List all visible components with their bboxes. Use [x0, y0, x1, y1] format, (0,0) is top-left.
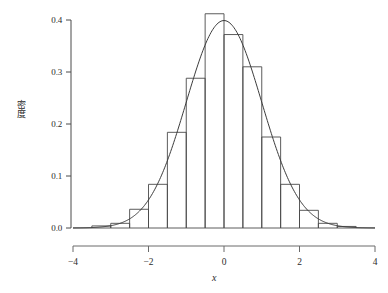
y-axis-label: 密度 — [12, 100, 26, 118]
histogram-bar — [300, 210, 319, 228]
histogram-bar — [167, 132, 186, 228]
x-tick-label-2: 0 — [212, 257, 236, 267]
x-tick-label-4: 4 — [363, 257, 387, 267]
histogram-bar — [243, 67, 262, 228]
histogram-bar — [186, 78, 205, 228]
histogram-bar — [224, 35, 243, 228]
histogram-bar — [318, 223, 337, 228]
y-tick-label-4: 0.4 — [36, 15, 62, 25]
y-tick-label-0: 0.0 — [36, 223, 62, 233]
histogram-bar — [281, 184, 300, 228]
x-tick-label-0: −4 — [61, 257, 85, 267]
y-tick-label-1: 0.1 — [36, 171, 62, 181]
x-axis-label: x — [212, 272, 216, 283]
density-histogram-figure: 0.0 0.1 0.2 0.3 0.4 −4 −2 0 2 4 密度 x — [0, 0, 388, 293]
histogram-bar — [262, 137, 281, 228]
chart-canvas — [0, 0, 388, 293]
histogram-bars — [92, 14, 356, 228]
histogram-bar — [205, 14, 224, 228]
histogram-bar — [149, 184, 168, 228]
y-axis-ticks — [66, 20, 71, 228]
y-tick-label-3: 0.3 — [36, 67, 62, 77]
x-tick-label-1: −2 — [137, 257, 161, 267]
histogram-bar — [111, 223, 130, 228]
y-tick-label-2: 0.2 — [36, 119, 62, 129]
x-axis-ticks — [73, 246, 375, 252]
x-tick-label-3: 2 — [288, 257, 312, 267]
